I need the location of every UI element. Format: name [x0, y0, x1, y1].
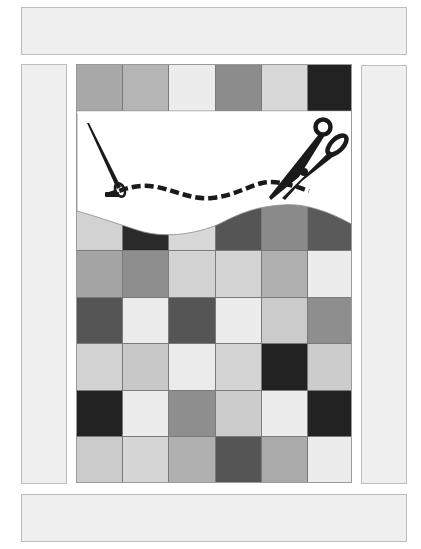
quilt-square	[77, 391, 123, 438]
quilt-square	[262, 251, 308, 298]
quilt-square	[77, 344, 123, 391]
quilt-square	[216, 251, 262, 298]
quilt-square	[262, 344, 308, 391]
quilt-row	[77, 251, 352, 298]
quilt-square	[308, 112, 352, 159]
quilt-square	[123, 251, 169, 298]
quilt-row	[77, 205, 352, 252]
quilt-grid	[76, 64, 352, 483]
quilt-square	[308, 205, 352, 252]
quilt-square	[169, 391, 215, 438]
quilt-square	[123, 344, 169, 391]
quilt-square	[216, 437, 262, 483]
quilt-row	[77, 391, 352, 438]
quilt-square	[308, 437, 352, 483]
quilt-square	[123, 298, 169, 345]
quilt-square	[169, 158, 215, 205]
quilt-square	[262, 65, 308, 112]
quilt-square	[216, 344, 262, 391]
quilt-square	[216, 158, 262, 205]
quilt-square	[216, 65, 262, 112]
quilt-row	[77, 344, 352, 391]
quilt-square	[169, 344, 215, 391]
quilt-square	[308, 65, 352, 112]
quilt-square	[308, 344, 352, 391]
quilt-square	[169, 251, 215, 298]
quilt-row	[77, 158, 352, 205]
quilt-square	[216, 391, 262, 438]
quilt-square	[216, 112, 262, 159]
bottom-banner-panel	[21, 494, 407, 542]
quilt-square	[262, 112, 308, 159]
quilt-square	[77, 437, 123, 483]
quilt-square	[123, 65, 169, 112]
quilt-square	[216, 205, 262, 252]
quilt-square	[308, 391, 352, 438]
quilt-square	[123, 391, 169, 438]
right-side-panel	[361, 65, 407, 484]
quilt-square	[169, 437, 215, 483]
quilt-square	[123, 158, 169, 205]
quilt-square	[123, 437, 169, 483]
quilt-square	[77, 251, 123, 298]
quilt-square	[77, 205, 123, 252]
quilt-square	[308, 298, 352, 345]
quilt-square	[77, 298, 123, 345]
quilt-square	[262, 158, 308, 205]
quilt-square	[262, 437, 308, 483]
quilt-square	[169, 112, 215, 159]
left-side-panel	[21, 64, 67, 484]
quilt-square	[169, 65, 215, 112]
quilt-square	[308, 251, 352, 298]
quilt-row	[77, 298, 352, 345]
quilt-square	[77, 112, 123, 159]
top-banner-panel	[21, 7, 407, 55]
quilt-square	[123, 205, 169, 252]
quilt-square	[262, 298, 308, 345]
quilt-square	[123, 112, 169, 159]
quilt-row	[77, 65, 352, 112]
quilt-square	[77, 158, 123, 205]
quilt-square	[216, 298, 262, 345]
quilt-square	[262, 205, 308, 252]
quilt-square	[169, 205, 215, 252]
quilt-square	[262, 391, 308, 438]
quilt-square	[308, 158, 352, 205]
quilt-square	[77, 65, 123, 112]
quilt-square	[169, 298, 215, 345]
quilt-row	[77, 112, 352, 159]
quilt-row	[77, 437, 352, 483]
